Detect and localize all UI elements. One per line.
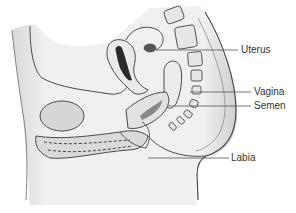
bladder — [40, 101, 84, 131]
label-semen: Semen — [254, 101, 286, 111]
anatomical-diagram — [0, 0, 296, 213]
label-uterus: Uterus — [241, 45, 270, 55]
label-vagina: Vagina — [254, 87, 284, 97]
label-labia: Labia — [231, 153, 255, 163]
ovary — [144, 44, 156, 52]
